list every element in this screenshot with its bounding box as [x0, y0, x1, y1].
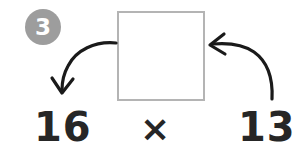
multiplication-operator: × [140, 107, 171, 151]
right-operand: 13 [238, 105, 294, 149]
left-operand: 16 [34, 105, 92, 149]
worksheet-canvas: 3 16 × 13 [0, 0, 294, 156]
equation-row: 16 × 13 [0, 103, 294, 151]
